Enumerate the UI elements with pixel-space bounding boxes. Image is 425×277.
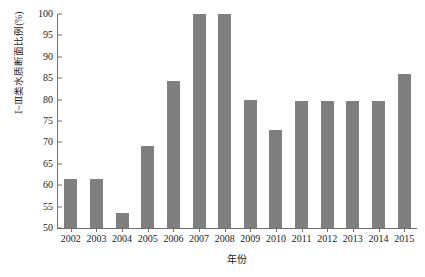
x-axis-tick-mark xyxy=(148,228,149,232)
bar[interactable] xyxy=(372,101,385,228)
bar[interactable] xyxy=(193,14,206,228)
plot-area: 2002200320042005200620072008200920102011… xyxy=(57,14,417,229)
y-axis-tick-label: 85 xyxy=(43,73,58,83)
x-axis-tick-label: 2008 xyxy=(215,234,235,244)
bar-slot: 2005 xyxy=(135,14,161,228)
y-axis-tick-label: 55 xyxy=(43,202,58,212)
y-axis-tick-mark xyxy=(58,142,62,143)
x-axis-tick-label: 2010 xyxy=(266,234,286,244)
y-axis-tick-label: 50 xyxy=(43,223,58,233)
x-axis-tick-label: 2007 xyxy=(189,234,209,244)
x-axis-title: 年份 xyxy=(57,255,417,265)
y-axis-tick-mark xyxy=(58,228,62,229)
x-axis-tick-label: 2012 xyxy=(317,234,337,244)
y-axis-tick-mark xyxy=(58,163,62,164)
y-axis-tick-mark xyxy=(58,78,62,79)
x-axis-tick-mark xyxy=(225,228,226,232)
y-axis-tick-mark xyxy=(58,121,62,122)
y-axis-title: Ⅰ~Ⅲ类水质断面比例(%) xyxy=(15,0,25,143)
y-axis-tick-label: 60 xyxy=(43,180,58,190)
bar-slot: 2009 xyxy=(237,14,263,228)
bars-container: 2002200320042005200620072008200920102011… xyxy=(58,14,417,228)
y-axis-tick-label: 65 xyxy=(43,159,58,169)
bar-slot: 2008 xyxy=(212,14,238,228)
bar-slot: 2013 xyxy=(340,14,366,228)
y-axis-tick-mark xyxy=(58,185,62,186)
bar[interactable] xyxy=(321,101,334,228)
x-axis-tick-label: 2004 xyxy=(112,234,132,244)
x-axis-tick-label: 2005 xyxy=(138,234,158,244)
x-axis-tick-mark xyxy=(302,228,303,232)
x-axis-tick-label: 2002 xyxy=(61,234,81,244)
x-axis-tick-mark xyxy=(404,228,405,232)
bar[interactable] xyxy=(116,213,129,228)
y-axis-tick-label: 95 xyxy=(43,30,58,40)
x-axis-tick-mark xyxy=(122,228,123,232)
bar-slot: 2004 xyxy=(109,14,135,228)
y-axis-tick-mark xyxy=(58,35,62,36)
bar-slot: 2010 xyxy=(263,14,289,228)
bar[interactable] xyxy=(269,130,282,228)
x-axis-tick-mark xyxy=(327,228,328,232)
bar-slot: 2007 xyxy=(186,14,212,228)
bar-slot: 2015 xyxy=(391,14,417,228)
x-axis-tick-mark xyxy=(173,228,174,232)
x-axis-tick-mark xyxy=(250,228,251,232)
bar[interactable] xyxy=(167,81,180,228)
x-axis-tick-label: 2006 xyxy=(163,234,183,244)
bar[interactable] xyxy=(244,100,257,228)
x-axis-tick-label: 2011 xyxy=(292,234,312,244)
x-axis-tick-label: 2013 xyxy=(343,234,363,244)
bar[interactable] xyxy=(218,14,231,228)
bar[interactable] xyxy=(295,101,308,228)
x-axis-tick-mark xyxy=(379,228,380,232)
bar[interactable] xyxy=(90,179,103,228)
x-axis-tick-label: 2009 xyxy=(240,234,260,244)
x-axis-tick-label: 2015 xyxy=(394,234,414,244)
x-axis-tick-mark xyxy=(353,228,354,232)
y-axis-tick-mark xyxy=(58,206,62,207)
y-axis-tick-label: 100 xyxy=(38,9,58,19)
y-axis-tick-mark xyxy=(58,56,62,57)
bar[interactable] xyxy=(64,179,77,228)
y-axis-tick-mark xyxy=(58,99,62,100)
bar[interactable] xyxy=(141,146,154,228)
x-axis-tick-mark xyxy=(71,228,72,232)
bar-slot: 2003 xyxy=(84,14,110,228)
x-axis-tick-label: 2003 xyxy=(86,234,106,244)
y-axis-tick-mark xyxy=(58,14,62,15)
x-axis-tick-mark xyxy=(96,228,97,232)
y-axis-tick-label: 80 xyxy=(43,95,58,105)
x-axis-tick-mark xyxy=(199,228,200,232)
y-axis-tick-label: 70 xyxy=(43,137,58,147)
bar-slot: 2011 xyxy=(289,14,315,228)
y-axis-tick-label: 75 xyxy=(43,116,58,126)
bar-slot: 2014 xyxy=(366,14,392,228)
y-axis-tick-label: 90 xyxy=(43,52,58,62)
bar-slot: 2012 xyxy=(314,14,340,228)
bar-chart: Ⅰ~Ⅲ类水质断面比例(%) 20022003200420052006200720… xyxy=(0,0,425,277)
bar[interactable] xyxy=(346,101,359,228)
x-axis-tick-label: 2014 xyxy=(369,234,389,244)
bar-slot: 2006 xyxy=(161,14,187,228)
bar[interactable] xyxy=(398,74,411,229)
x-axis-tick-mark xyxy=(276,228,277,232)
